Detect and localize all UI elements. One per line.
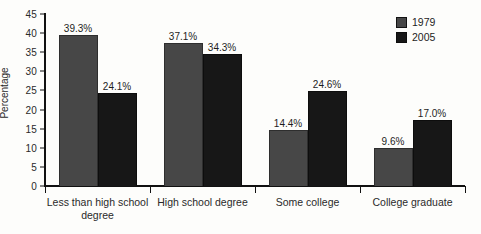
category-label: Less than high school degree — [45, 196, 150, 222]
bar-1979-1: 39.3% — [59, 35, 98, 186]
bar-pair: 37.1%34.3% — [150, 14, 255, 186]
legend-item-1979: 1979 — [396, 16, 435, 28]
bar-value-label: 24.1% — [103, 81, 131, 92]
legend-swatch-2005-icon — [396, 32, 407, 43]
category-label: Some college — [255, 196, 360, 222]
category-label: High school degree — [150, 196, 255, 222]
bar-1979-2: 37.1% — [164, 43, 203, 186]
bar-2005-3: 24.6% — [308, 91, 347, 186]
x-axis-category-labels: Less than high school degreeHigh school … — [45, 196, 465, 222]
x-axis-tick — [45, 186, 46, 193]
bar-value-label: 17.0% — [418, 108, 446, 119]
legend-item-2005: 2005 — [396, 31, 435, 43]
x-axis-tick — [465, 186, 466, 193]
bar-group: 37.1%34.3% — [150, 14, 255, 186]
legend-swatch-1979-icon — [396, 17, 407, 28]
bar-1979-3: 14.4% — [269, 130, 308, 186]
x-axis-tick — [255, 186, 256, 193]
bar-value-label: 39.3% — [64, 23, 92, 34]
bar-2005-1: 24.1% — [98, 93, 137, 186]
x-axis-tick — [150, 186, 151, 193]
legend: 1979 2005 — [396, 16, 435, 46]
bar-group: 14.4%24.6% — [255, 14, 360, 186]
category-label: College graduate — [360, 196, 465, 222]
bar-value-label: 14.4% — [274, 118, 302, 129]
legend-label-2005: 2005 — [412, 31, 435, 43]
bar-chart: Percentage 454035302520151050 39.3%24.1%… — [0, 0, 481, 234]
legend-label-1979: 1979 — [412, 16, 435, 28]
bar-value-label: 24.6% — [313, 79, 341, 90]
bar-pair: 39.3%24.1% — [45, 14, 150, 186]
bar-value-label: 37.1% — [169, 31, 197, 42]
bar-value-label: 9.6% — [382, 136, 405, 147]
x-axis-tick — [360, 186, 361, 193]
bar-1979-4: 9.6% — [374, 148, 413, 186]
y-axis-title: Percentage — [0, 67, 10, 118]
bar-2005-2: 34.3% — [203, 54, 242, 186]
bar-pair: 14.4%24.6% — [255, 14, 360, 186]
bar-value-label: 34.3% — [208, 42, 236, 53]
bar-2005-4: 17.0% — [413, 120, 452, 186]
bar-group: 39.3%24.1% — [45, 14, 150, 186]
